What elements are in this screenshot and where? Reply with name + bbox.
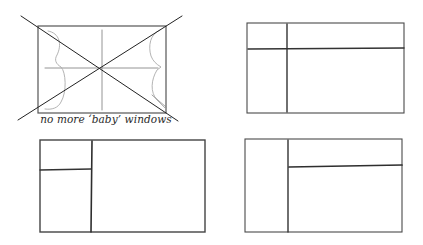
layout-c-sketch [245, 139, 402, 232]
left-baby-window-curve [45, 31, 65, 109]
layout-b-sketch [40, 140, 205, 232]
layout-a-horizontal-divider [248, 48, 404, 49]
layout-a-frame [247, 23, 404, 113]
layout-b-horizontal-divider [40, 169, 91, 170]
layout-b-frame [40, 140, 205, 232]
layout-c-frame [245, 139, 402, 232]
rejected-layout-caption: no more ‘baby’ windows [0, 113, 212, 125]
layout-b-vertical-divider [91, 141, 92, 232]
right-baby-window-curve [150, 30, 165, 108]
layout-a-sketch [247, 23, 404, 113]
layout-c-horizontal-divider [289, 165, 402, 167]
rejected-layout-sketch [18, 16, 182, 121]
